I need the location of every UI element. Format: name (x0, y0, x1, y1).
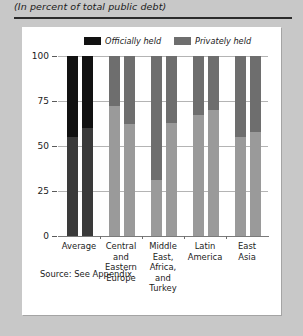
source-note: Source: See Appendix. (40, 269, 135, 279)
stacked-bar (193, 56, 205, 236)
bar-segment-privately-held (235, 137, 247, 236)
x-axis-category-label: Latin America (184, 241, 226, 262)
stacked-bar (124, 56, 136, 236)
bar-segment-officially-held (151, 56, 163, 180)
stacked-bar (109, 56, 121, 236)
x-axis-category-label: Average (58, 241, 100, 252)
y-axis-label: 0 (43, 232, 49, 241)
legend-swatch-officially-held (84, 37, 101, 45)
x-axis-category-label: Middle East, Africa, and Turkey (142, 241, 184, 294)
bar-segment-officially-held (193, 56, 205, 115)
y-axis-label: 25 (38, 187, 49, 196)
y-axis-tick (52, 101, 57, 102)
x-axis-tick (142, 236, 143, 239)
chart-panel: Officially held Privately held 025507510… (22, 27, 281, 315)
legend-label-privately-held: Privately held (195, 36, 251, 46)
figure-container: (In percent of total public debt) Offici… (0, 0, 303, 336)
bar-segment-officially-held (235, 56, 247, 137)
y-axis-label: 100 (32, 52, 49, 61)
stacked-bar (151, 56, 163, 236)
bar-segment-privately-held (67, 137, 79, 236)
plot-area: 0255075100AverageCentral and Eastern Eur… (58, 56, 268, 236)
bar-segment-privately-held (208, 110, 220, 236)
bar-segment-privately-held (250, 132, 262, 236)
bar-segment-privately-held (109, 106, 121, 236)
stacked-bar (67, 56, 79, 236)
stacked-bar (235, 56, 247, 236)
bar-segment-officially-held (250, 56, 262, 132)
legend-swatch-privately-held (174, 37, 191, 45)
stacked-bar (166, 56, 178, 236)
x-axis-category-label: East Asia (226, 241, 268, 262)
bar-segment-privately-held (151, 180, 163, 236)
legend-item-officially-held: Officially held (84, 36, 161, 46)
chart-legend: Officially held Privately held (22, 36, 281, 48)
y-axis-tick (52, 56, 57, 57)
header-rule (14, 17, 292, 19)
bar-segment-privately-held (124, 124, 136, 236)
x-axis-line (58, 236, 269, 237)
bar-segment-privately-held (82, 128, 94, 236)
bar-segment-officially-held (67, 56, 79, 137)
legend-item-privately-held: Privately held (174, 36, 251, 46)
figure-subtitle: (In percent of total public debt) (14, 1, 166, 12)
legend-label-officially-held: Officially held (105, 36, 161, 46)
x-axis-tick (184, 236, 185, 239)
stacked-bar (82, 56, 94, 236)
bar-segment-officially-held (124, 56, 136, 124)
x-axis-tick (100, 236, 101, 239)
y-axis-tick (52, 146, 57, 147)
x-axis-tick (226, 236, 227, 239)
bar-segment-privately-held (193, 115, 205, 236)
y-axis-label: 75 (38, 97, 49, 106)
y-axis-tick (52, 236, 57, 237)
bar-segment-officially-held (166, 56, 178, 123)
bar-segment-officially-held (109, 56, 121, 106)
bar-segment-officially-held (82, 56, 94, 128)
y-axis-label: 50 (38, 142, 49, 151)
stacked-bar (208, 56, 220, 236)
bar-segment-officially-held (208, 56, 220, 110)
bar-segment-privately-held (166, 123, 178, 236)
stacked-bar (250, 56, 262, 236)
y-axis-tick (52, 191, 57, 192)
